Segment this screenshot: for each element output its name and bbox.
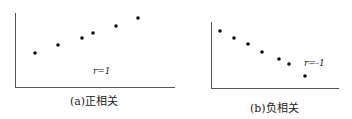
left-annotation: r=1 [93,66,111,76]
data-point [33,51,37,55]
right-caption: (b)负相关 [250,99,299,115]
left-caption: (a)正相关 [70,92,118,108]
chart-canvas [0,0,352,119]
data-point [218,29,222,33]
right-axes [211,22,339,89]
data-point [260,50,264,54]
data-point [56,43,60,47]
data-point [246,42,250,46]
right-annotation: r=-1 [304,58,325,68]
right-scatter-points [218,29,307,78]
left-axes [15,13,175,88]
data-point [136,16,140,20]
data-point [80,36,84,40]
data-point [114,24,118,28]
data-point [303,74,307,78]
data-point [277,57,281,61]
data-point [91,31,95,35]
data-point [287,62,291,66]
data-point [232,36,236,40]
left-scatter-points [33,16,140,55]
